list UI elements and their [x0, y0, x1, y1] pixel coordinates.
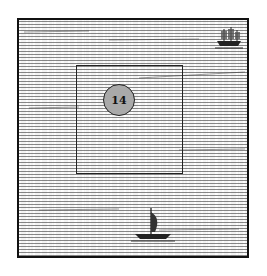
- sailboat-icon: [131, 206, 175, 244]
- location-marker[interactable]: 14: [103, 84, 135, 116]
- marker-label: 14: [111, 94, 126, 107]
- galleon-ship-icon: [215, 26, 243, 50]
- viewport-rectangle[interactable]: [76, 65, 183, 174]
- map-tile[interactable]: 14: [17, 18, 249, 258]
